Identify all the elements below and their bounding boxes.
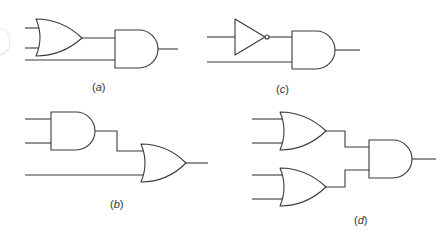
circuit-d-or-gate-bottom xyxy=(280,168,326,206)
circuit-d-label: (d) xyxy=(354,214,367,226)
circuit-b-or-gate xyxy=(141,144,186,182)
circuit-d-or-gate-top xyxy=(280,112,326,150)
circuit-c-and-gate xyxy=(292,31,335,69)
circuit-c-not-bubble xyxy=(265,35,269,39)
circuit-d-or-top-output xyxy=(326,131,369,147)
circuit-b-and-output xyxy=(95,131,144,151)
scan-artifact xyxy=(0,28,10,55)
circuit-d: (d) xyxy=(252,112,436,226)
circuit-d-and-gate xyxy=(369,140,412,178)
circuit-a-or-gate xyxy=(36,19,82,56)
logic-circuits-figure: (a) (c) (b) xyxy=(0,0,446,231)
circuit-a-and-gate xyxy=(115,30,158,68)
circuit-b: (b) xyxy=(25,112,208,210)
circuit-d-or-bottom-output xyxy=(326,170,369,187)
circuit-b-label: (b) xyxy=(110,198,123,210)
circuit-a-label: (a) xyxy=(92,81,105,93)
circuit-b-and-gate xyxy=(51,112,95,150)
circuit-c-label: (c) xyxy=(276,83,289,95)
circuit-a: (a) xyxy=(25,19,178,93)
circuit-c-not-gate xyxy=(235,19,265,55)
circuit-c: (c) xyxy=(207,19,360,95)
